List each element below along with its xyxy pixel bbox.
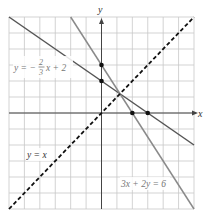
coordinate-graph: y x y = − 2 3 x + 2 y = x 3x + 2y = 6 [0, 0, 207, 222]
equation-label-3x-plus-2y-equals-6: 3x + 2y = 6 [120, 177, 170, 190]
point-marker-icon [99, 63, 104, 68]
eq1-denominator: 3 [38, 68, 43, 77]
x-axis-label: x [197, 108, 203, 119]
eq1-suffix: x + 2 [45, 63, 66, 73]
point-marker-icon [130, 111, 135, 116]
eq3-label: y = x [26, 150, 47, 160]
eq1-prefix: y = − [13, 63, 36, 73]
eq2-label: 3x + 2y = 6 [120, 179, 166, 189]
y-axis-arrow-icon [99, 18, 104, 24]
point-marker-icon [145, 111, 150, 116]
equation-label-y-equals-x: y = x [26, 148, 52, 161]
equation-label-y-neg-two-thirds-x-plus-2: y = − 2 3 x + 2 [13, 56, 73, 78]
eq1-numerator: 2 [39, 58, 43, 67]
point-marker-icon [99, 79, 104, 84]
y-axis-label: y [97, 4, 103, 15]
